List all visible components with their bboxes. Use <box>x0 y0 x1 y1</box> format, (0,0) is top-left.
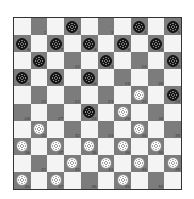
square-11[interactable]: 11 <box>31 52 48 69</box>
black-man-piece-icon[interactable] <box>167 89 179 101</box>
light-square <box>148 155 165 172</box>
black-man-piece-icon[interactable] <box>50 72 62 84</box>
square-19[interactable]: 19 <box>114 69 131 86</box>
square-25[interactable]: 25 <box>164 86 181 103</box>
square-50[interactable]: 50 <box>148 172 165 189</box>
square-6[interactable]: 6 <box>14 35 31 52</box>
light-square <box>64 138 81 155</box>
square-46[interactable]: 46 <box>14 172 31 189</box>
square-24[interactable]: 24 <box>131 86 148 103</box>
white-man-piece-icon[interactable] <box>117 106 129 118</box>
square-45[interactable]: 45 <box>164 155 181 172</box>
square-4[interactable]: 4 <box>131 18 148 35</box>
black-man-piece-icon[interactable] <box>117 38 129 50</box>
light-square <box>98 138 115 155</box>
light-square <box>131 172 148 189</box>
light-square <box>131 138 148 155</box>
black-man-piece-icon[interactable] <box>100 55 112 67</box>
square-48[interactable]: 48 <box>81 172 98 189</box>
light-square <box>114 121 131 138</box>
black-man-piece-icon[interactable] <box>133 21 145 33</box>
square-8[interactable]: 8 <box>81 35 98 52</box>
light-square <box>14 121 31 138</box>
square-22[interactable]: 22 <box>64 86 81 103</box>
square-37[interactable]: 37 <box>47 138 64 155</box>
light-square <box>131 69 148 86</box>
white-man-piece-icon[interactable] <box>50 140 62 152</box>
square-16[interactable]: 16 <box>14 69 31 86</box>
black-man-piece-icon[interactable] <box>66 21 78 33</box>
light-square <box>114 86 131 103</box>
square-49[interactable]: 49 <box>114 172 131 189</box>
square-number: 46 <box>25 185 30 189</box>
square-5[interactable]: 5 <box>164 18 181 35</box>
black-man-piece-icon[interactable] <box>50 38 62 50</box>
square-40[interactable]: 40 <box>148 138 165 155</box>
square-18[interactable]: 18 <box>81 69 98 86</box>
white-man-piece-icon[interactable] <box>117 174 129 186</box>
square-7[interactable]: 7 <box>47 35 64 52</box>
square-34[interactable]: 34 <box>131 121 148 138</box>
square-21[interactable]: 21 <box>31 86 48 103</box>
square-3[interactable]: 3 <box>98 18 115 35</box>
light-square <box>148 52 165 69</box>
square-41[interactable]: 41 <box>31 155 48 172</box>
black-man-piece-icon[interactable] <box>83 72 95 84</box>
light-square <box>164 104 181 121</box>
black-man-piece-icon[interactable] <box>83 38 95 50</box>
light-square <box>31 172 48 189</box>
light-square <box>164 69 181 86</box>
light-square <box>31 35 48 52</box>
light-square <box>47 86 64 103</box>
white-man-piece-icon[interactable] <box>117 140 129 152</box>
light-square <box>47 155 64 172</box>
square-17[interactable]: 17 <box>47 69 64 86</box>
square-15[interactable]: 15 <box>164 52 181 69</box>
square-33[interactable]: 33 <box>98 121 115 138</box>
square-13[interactable]: 13 <box>98 52 115 69</box>
light-square <box>31 104 48 121</box>
black-man-piece-icon[interactable] <box>16 38 28 50</box>
black-man-piece-icon[interactable] <box>167 21 179 33</box>
light-square <box>47 121 64 138</box>
square-31[interactable]: 31 <box>31 121 48 138</box>
square-20[interactable]: 20 <box>148 69 165 86</box>
light-square <box>131 35 148 52</box>
light-square <box>114 155 131 172</box>
light-square <box>47 52 64 69</box>
black-man-piece-icon[interactable] <box>167 55 179 67</box>
light-square <box>114 52 131 69</box>
square-27[interactable]: 27 <box>47 104 64 121</box>
square-42[interactable]: 42 <box>64 155 81 172</box>
square-9[interactable]: 9 <box>114 35 131 52</box>
square-2[interactable]: 2 <box>64 18 81 35</box>
white-man-piece-icon[interactable] <box>167 157 179 169</box>
square-29[interactable]: 29 <box>114 104 131 121</box>
square-number: 47 <box>58 185 63 189</box>
square-26[interactable]: 26 <box>14 104 31 121</box>
draughts-board: 1234567891011121314151617181920212223242… <box>13 17 182 190</box>
black-man-piece-icon[interactable] <box>150 38 162 50</box>
light-square <box>164 138 181 155</box>
square-38[interactable]: 38 <box>81 138 98 155</box>
square-14[interactable]: 14 <box>131 52 148 69</box>
square-35[interactable]: 35 <box>164 121 181 138</box>
square-1[interactable]: 1 <box>31 18 48 35</box>
light-square <box>14 86 31 103</box>
light-square <box>14 155 31 172</box>
square-12[interactable]: 12 <box>64 52 81 69</box>
square-47[interactable]: 47 <box>47 172 64 189</box>
light-square <box>81 155 98 172</box>
square-23[interactable]: 23 <box>98 86 115 103</box>
square-30[interactable]: 30 <box>148 104 165 121</box>
square-32[interactable]: 32 <box>64 121 81 138</box>
square-10[interactable]: 10 <box>148 35 165 52</box>
square-44[interactable]: 44 <box>131 155 148 172</box>
square-39[interactable]: 39 <box>114 138 131 155</box>
square-43[interactable]: 43 <box>98 155 115 172</box>
black-man-piece-icon[interactable] <box>33 55 45 67</box>
light-square <box>148 86 165 103</box>
square-28[interactable]: 28 <box>81 104 98 121</box>
light-square <box>81 52 98 69</box>
square-36[interactable]: 36 <box>14 138 31 155</box>
